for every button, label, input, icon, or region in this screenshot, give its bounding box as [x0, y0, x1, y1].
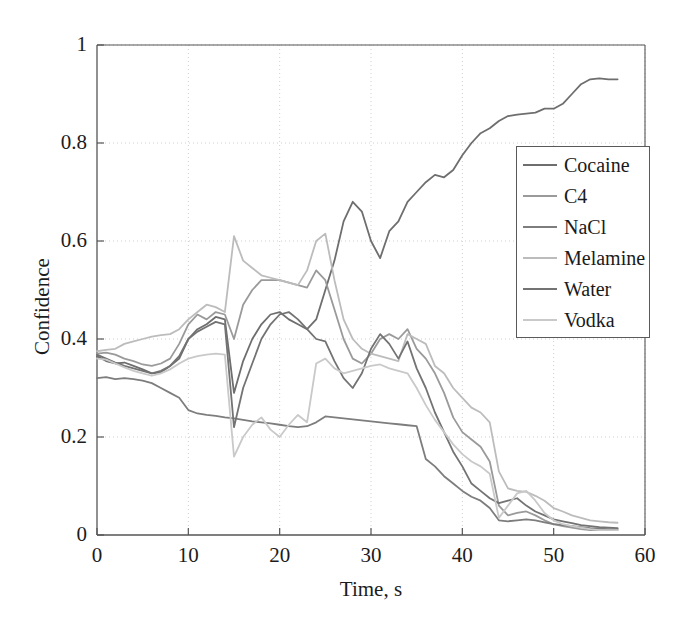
chart-figure-root: 00.20.40.60.81 0102030405060 Confidence …: [0, 0, 683, 620]
chart-legend: CocaineC4NaClMelamineWaterVodka: [516, 146, 650, 338]
legend-item-melamine[interactable]: Melamine: [523, 242, 645, 274]
legend-label: Vodka: [564, 310, 615, 330]
x-axis-title: Time, s: [97, 577, 645, 602]
y-tick-label: 0.8: [61, 130, 87, 155]
legend-line-swatch: [523, 257, 557, 259]
legend-item-cocaine[interactable]: Cocaine: [523, 149, 630, 181]
legend-item-c4[interactable]: C4: [523, 180, 587, 212]
legend-item-vodka[interactable]: Vodka: [523, 304, 615, 336]
x-tick-label: 10: [158, 543, 218, 568]
legend-item-nacl[interactable]: NaCl: [523, 211, 606, 243]
legend-label: Water: [564, 279, 611, 299]
y-axis-title: Confidence: [30, 258, 55, 355]
legend-item-water[interactable]: Water: [523, 273, 611, 305]
legend-label: C4: [564, 186, 587, 206]
legend-line-swatch: [523, 226, 557, 228]
legend-line-swatch: [523, 195, 557, 197]
legend-label: Melamine: [564, 248, 645, 268]
y-tick-label: 0.2: [61, 424, 87, 449]
y-tick-label: 0.6: [61, 228, 87, 253]
x-tick-label: 0: [67, 543, 127, 568]
x-tick-label: 50: [524, 543, 584, 568]
x-tick-label: 30: [341, 543, 401, 568]
legend-label: Cocaine: [564, 155, 630, 175]
x-tick-label: 40: [432, 543, 492, 568]
legend-label: NaCl: [564, 217, 606, 237]
x-tick-label: 20: [250, 543, 310, 568]
legend-line-swatch: [523, 164, 557, 166]
legend-line-swatch: [523, 319, 557, 321]
y-tick-label: 0.4: [61, 326, 87, 351]
legend-line-swatch: [523, 288, 557, 290]
x-tick-label: 60: [615, 543, 675, 568]
y-tick-label: 1: [77, 32, 88, 57]
